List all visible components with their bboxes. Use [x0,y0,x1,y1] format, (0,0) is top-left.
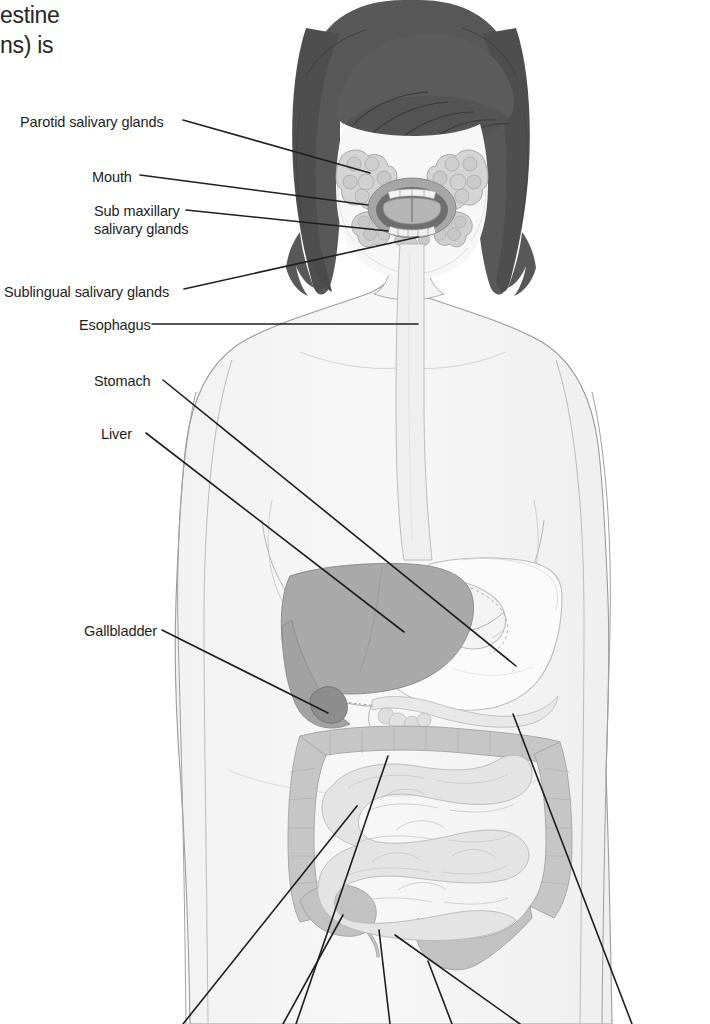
label-line-1: Sublingual salivary glands [4,284,169,300]
label-mouth: Mouth [92,168,132,186]
label-line-1: Mouth [92,169,132,185]
label-parotid-salivary-glands: Parotid salivary glands [20,113,164,131]
label-esophagus: Esophagus [79,316,151,334]
label-sublingual-salivary-glands: Sublingual salivary glands [4,283,169,301]
label-line-1: Gallbladder [84,623,157,639]
label-line-1: Parotid salivary glands [20,114,164,130]
label-line-1: Stomach [94,373,151,389]
label-line-1: Sub maxillary [94,203,180,219]
label-line-2: salivary glands [94,221,188,237]
label-stomach: Stomach [94,372,151,390]
label-line-1: Liver [101,426,132,442]
diagram-page: estinens) is Parotid salivary glandsMout… [0,0,710,1024]
label-line-1: Esophagus [79,317,151,333]
caption-fragment: ns) is [0,32,53,59]
label-liver: Liver [101,425,132,443]
label-gallbladder: Gallbladder [84,622,157,640]
digestive-system-figure [0,0,710,1024]
label-sub-maxillary-salivary-glands: Sub maxillarysalivary glands [94,202,188,238]
caption-fragment: estine [0,2,60,29]
mouth [368,178,456,238]
